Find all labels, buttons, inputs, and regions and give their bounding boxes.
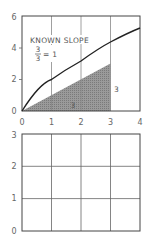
- known-slope-label: KNOWN SLOPE: [30, 36, 89, 45]
- y-tick-label: 6: [11, 13, 16, 22]
- x-tick-label: 0: [19, 118, 24, 127]
- x-tick-label: 1: [49, 118, 54, 127]
- y-tick-label: 2: [11, 75, 16, 84]
- y-tick-label: 2: [11, 162, 16, 171]
- x-tick-label: 3: [108, 118, 113, 127]
- bottom-chart: 0 1 2 3: [11, 131, 140, 236]
- y-tick-label: 3: [11, 131, 16, 140]
- y-tick-label: 4: [11, 44, 16, 53]
- fraction-denominator: 3: [35, 54, 40, 63]
- y-tick-label: 0: [11, 227, 16, 236]
- x-tick-label: 4: [137, 118, 142, 127]
- y-tick-label: 1: [11, 194, 16, 203]
- fraction-numerator: 3: [35, 45, 40, 54]
- y-tick-label: 0: [11, 107, 16, 116]
- triangle-base-label: 3: [70, 101, 75, 110]
- slope-triangle: [22, 64, 111, 112]
- chart-canvas: 0 2 4 6 0 1 2 3 4 KNOWN SLOPE 3 3 = 1 3 …: [0, 0, 150, 246]
- x-tick-label: 2: [78, 118, 83, 127]
- triangle-height-label: 3: [114, 85, 119, 94]
- top-chart: 0 2 4 6 0 1 2 3 4 KNOWN SLOPE 3 3 = 1 3 …: [11, 13, 142, 128]
- fraction-equals: = 1: [43, 50, 57, 59]
